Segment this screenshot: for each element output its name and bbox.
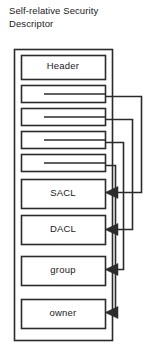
connector-owner-arrowhead	[105, 307, 118, 319]
self-relative-security-descriptor-figure: Self-relative Security Descriptor Header…	[0, 0, 149, 353]
group-block-label: group	[21, 264, 105, 275]
owner-block-label: owner	[21, 307, 105, 318]
diagram-canvas	[0, 0, 149, 353]
header-field-label: Header	[21, 60, 105, 71]
dacl-block-label: DACL	[21, 223, 105, 234]
sacl-block-label: SACL	[21, 187, 105, 198]
